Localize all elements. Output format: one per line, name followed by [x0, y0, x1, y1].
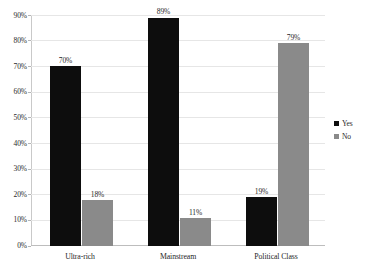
plot-area: 70% 18% 89% 11% 19% 79%: [31, 15, 325, 246]
legend: Yes No: [334, 117, 353, 143]
legend-swatch-icon: [334, 121, 339, 126]
y-axis-tick-label: 20%: [0, 191, 27, 199]
x-axis-category-label: Political Class: [227, 253, 325, 261]
bar-value-label: 70%: [45, 57, 86, 65]
y-axis-tick-label: 0%: [0, 242, 27, 250]
bar-value-label: 19%: [241, 188, 282, 196]
legend-label: Yes: [342, 120, 353, 128]
bar-political-class-no[interactable]: [278, 43, 309, 246]
bar-value-label: 79%: [273, 34, 314, 42]
legend-item-yes[interactable]: Yes: [334, 117, 353, 130]
bar-value-label: 11%: [175, 209, 216, 217]
bar-ultra-rich-no[interactable]: [82, 200, 113, 246]
y-axis-tick-label: 80%: [0, 37, 27, 45]
bar-value-label: 89%: [143, 8, 184, 16]
bar-ultra-rich-yes[interactable]: [50, 66, 81, 246]
bar-mainstream-no[interactable]: [180, 218, 211, 246]
bar-chart: 90% 80% 70% 60% 50% 40% 30% 20% 10% 0% 7…: [0, 0, 378, 268]
bar-group-ultra-rich: 70% 18%: [31, 15, 129, 246]
bar-group-political-class: 19% 79%: [227, 15, 325, 246]
y-axis-tick-mark: [28, 246, 31, 247]
legend-item-no[interactable]: No: [334, 130, 353, 143]
legend-label: No: [342, 133, 351, 141]
x-axis-category-label: Ultra-rich: [31, 253, 129, 261]
bar-political-class-yes[interactable]: [246, 197, 277, 246]
y-axis-tick-label: 50%: [0, 114, 27, 122]
y-axis-tick-label: 90%: [0, 12, 27, 20]
bar-group-mainstream: 89% 11%: [129, 15, 227, 246]
y-axis-tick-label: 60%: [0, 88, 27, 96]
bar-value-label: 18%: [77, 191, 118, 199]
y-axis-tick-label: 10%: [0, 216, 27, 224]
y-axis-tick-label: 40%: [0, 140, 27, 148]
y-axis-tick-label: 70%: [0, 63, 27, 71]
legend-swatch-icon: [334, 134, 339, 139]
x-axis-category-label: Mainstream: [129, 253, 227, 261]
y-axis-tick-label: 30%: [0, 165, 27, 173]
